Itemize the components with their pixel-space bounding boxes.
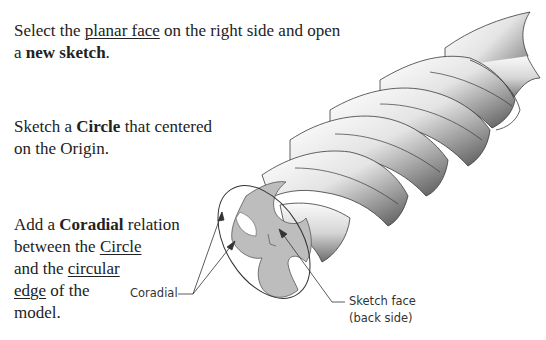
- helical-drill-figure: [0, 0, 546, 340]
- sketch-face: [232, 182, 312, 298]
- callout-line: Sketch face: [349, 293, 416, 310]
- coradial-callout-label: Coradial: [130, 285, 178, 302]
- callout-line: (back side): [349, 310, 416, 327]
- sketch-face-callout: Sketch face (back side): [349, 293, 416, 327]
